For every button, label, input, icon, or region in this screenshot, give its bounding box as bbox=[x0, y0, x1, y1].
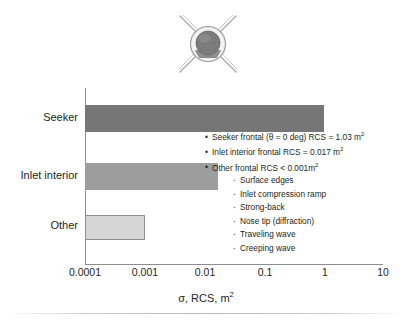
annotation-item: •Other frontal RCS < 0.001m2 bbox=[205, 159, 405, 174]
bullet-icon: • bbox=[205, 131, 212, 144]
annotation-superscript: 2 bbox=[361, 131, 364, 137]
x-tick-3: 0.1 bbox=[258, 266, 273, 278]
annotation-text: Inlet compression ramp bbox=[240, 189, 326, 199]
annotation-item: •Seeker frontal (θ = 0 deg) RCS = 1.03 m… bbox=[205, 128, 405, 143]
annotation-item: ·Strong-back bbox=[205, 201, 405, 215]
annotation-item: ·Nose tip (diffraction) bbox=[205, 215, 405, 229]
x-axis-tick-labels: 0.0001 0.001 0.01 0.1 1 10 bbox=[85, 266, 383, 282]
x-tick-1: 0.001 bbox=[132, 266, 158, 278]
annotation-item: ·Creeping wave bbox=[205, 242, 405, 256]
annotation-text: Other frontal RCS < 0.001m bbox=[212, 162, 315, 172]
annotation-text: Nose tip (diffraction) bbox=[240, 216, 314, 226]
bottom-divider bbox=[6, 313, 406, 314]
bullet-icon: • bbox=[205, 146, 212, 159]
x-tick-0: 0.0001 bbox=[69, 266, 101, 278]
x-tick-4: 1 bbox=[322, 266, 328, 278]
missile-seeker-front-view-icon bbox=[176, 12, 240, 76]
bar-inlet-interior bbox=[85, 163, 218, 190]
annotation-list: •Seeker frontal (θ = 0 deg) RCS = 1.03 m… bbox=[205, 128, 405, 256]
annotation-text: Creeping wave bbox=[240, 243, 295, 253]
annotation-item: ·Inlet compression ramp bbox=[205, 188, 405, 202]
annotation-item: •Inlet interior frontal RCS = 0.017 m2 bbox=[205, 143, 405, 158]
y-label-seeker: Seeker bbox=[43, 111, 78, 123]
bullet-icon: · bbox=[233, 188, 240, 202]
bullet-icon: · bbox=[233, 242, 240, 256]
bullet-icon: · bbox=[233, 174, 240, 188]
bullet-icon: • bbox=[205, 161, 212, 174]
bullet-icon: · bbox=[233, 201, 240, 215]
x-axis-title-sup: 2 bbox=[230, 290, 234, 299]
annotation-item: ·Traveling wave bbox=[205, 228, 405, 242]
annotation-text: Inlet interior frontal RCS = 0.017 m bbox=[212, 147, 340, 157]
x-axis-title-main: σ, RCS, m bbox=[178, 292, 229, 304]
annotation-text: Strong-back bbox=[240, 202, 285, 212]
rcs-bar-chart-figure: Seeker Inlet interior Other 0.0001 0.001… bbox=[0, 0, 412, 323]
bullet-icon: · bbox=[233, 228, 240, 242]
y-label-other: Other bbox=[50, 219, 78, 231]
bullet-icon: · bbox=[233, 215, 240, 229]
annotation-item: ·Surface edges bbox=[205, 174, 405, 188]
bar-other bbox=[85, 215, 145, 240]
y-label-inlet-interior: Inlet interior bbox=[21, 169, 78, 181]
annotation-text: Surface edges bbox=[240, 175, 294, 185]
annotation-text: Seeker frontal (θ = 0 deg) RCS = 1.03 m bbox=[212, 132, 361, 142]
x-tick-5: 10 bbox=[377, 266, 389, 278]
annotation-text: Traveling wave bbox=[240, 229, 296, 239]
annotation-superscript: 2 bbox=[315, 162, 318, 168]
x-axis-line bbox=[85, 264, 383, 265]
annotation-superscript: 2 bbox=[340, 146, 343, 152]
x-axis-title: σ, RCS, m2 bbox=[0, 290, 412, 304]
y-axis-category-labels: Seeker Inlet interior Other bbox=[0, 88, 78, 264]
x-tick-2: 0.01 bbox=[195, 266, 215, 278]
